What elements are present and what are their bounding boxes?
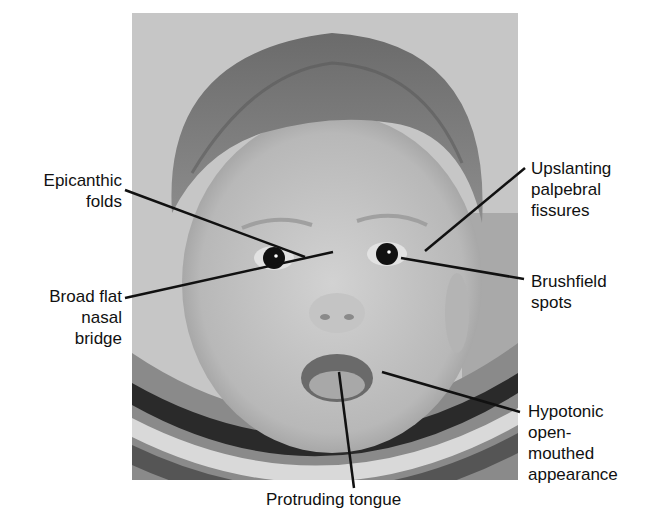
label-broad-flat-nasal-bridge: Broad flat nasal bridge bbox=[10, 286, 122, 349]
label-hypotonic-open-mouthed-appearance: Hypotonic open- mouthed appearance bbox=[528, 401, 618, 485]
pointer-brushfield bbox=[401, 258, 524, 279]
annotated-figure: Epicanthic folds Broad flat nasal bridge… bbox=[0, 0, 662, 532]
pointer-epicanthic bbox=[125, 190, 305, 257]
label-upslanting-palpebral-fissures: Upslanting palpebral fissures bbox=[531, 158, 611, 221]
pointer-tongue bbox=[339, 372, 354, 488]
pointer-hypotonic bbox=[382, 372, 520, 412]
label-protruding-tongue: Protruding tongue bbox=[266, 489, 401, 510]
label-brushfield-spots: Brushfield spots bbox=[531, 271, 607, 313]
pointer-upslanting bbox=[425, 168, 525, 251]
label-epicanthic-folds: Epicanthic folds bbox=[10, 170, 122, 212]
pointer-nasal-bridge bbox=[125, 252, 333, 298]
